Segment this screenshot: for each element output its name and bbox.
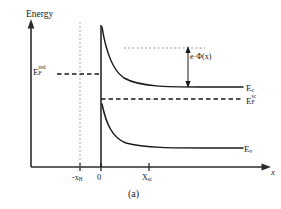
- tick-xsc-sub: sc: [148, 176, 152, 182]
- valence-band-subscript: v: [250, 148, 253, 154]
- tick-xh-sub: H: [79, 176, 83, 182]
- y-axis-label: Energy: [26, 10, 53, 20]
- semiconductor-fermi-level-superscript: sc: [252, 94, 257, 100]
- semiconductor-fermi-level-subscript: F: [252, 100, 257, 106]
- conduction-band-curve: [102, 27, 243, 87]
- tick-label-zero: 0: [97, 173, 101, 182]
- valence-band-curve: [102, 104, 243, 148]
- conduction-band-label: Ec: [246, 84, 254, 93]
- figure-caption: (a): [128, 189, 139, 199]
- y-axis: [28, 19, 35, 167]
- band-diagram-figure: Energy x EredF Ec EscF Ev e·Φ(x) -xH 0 X…: [0, 0, 281, 209]
- tick-label-minus-xh: -xH: [72, 174, 82, 182]
- band-bending-label: e·Φ(x): [190, 53, 211, 61]
- redox-fermi-level-label: EredF: [33, 67, 46, 78]
- tick-label-xsc: Xsc: [142, 174, 152, 182]
- redox-fermi-level-superscript: red: [39, 65, 46, 71]
- band-bending-symbol: ·Φ(x): [194, 52, 212, 61]
- redox-fermi-level-subscript: F: [39, 71, 46, 77]
- x-axis: [31, 164, 271, 171]
- tick-xh-main: -x: [72, 173, 79, 182]
- semiconductor-fermi-level-label: EscF: [246, 96, 256, 107]
- valence-band-label: Ev: [244, 145, 252, 154]
- tick-zero-main: 0: [97, 172, 101, 182]
- band-diagram-canvas: [0, 0, 281, 209]
- x-axis-label: x: [271, 168, 275, 177]
